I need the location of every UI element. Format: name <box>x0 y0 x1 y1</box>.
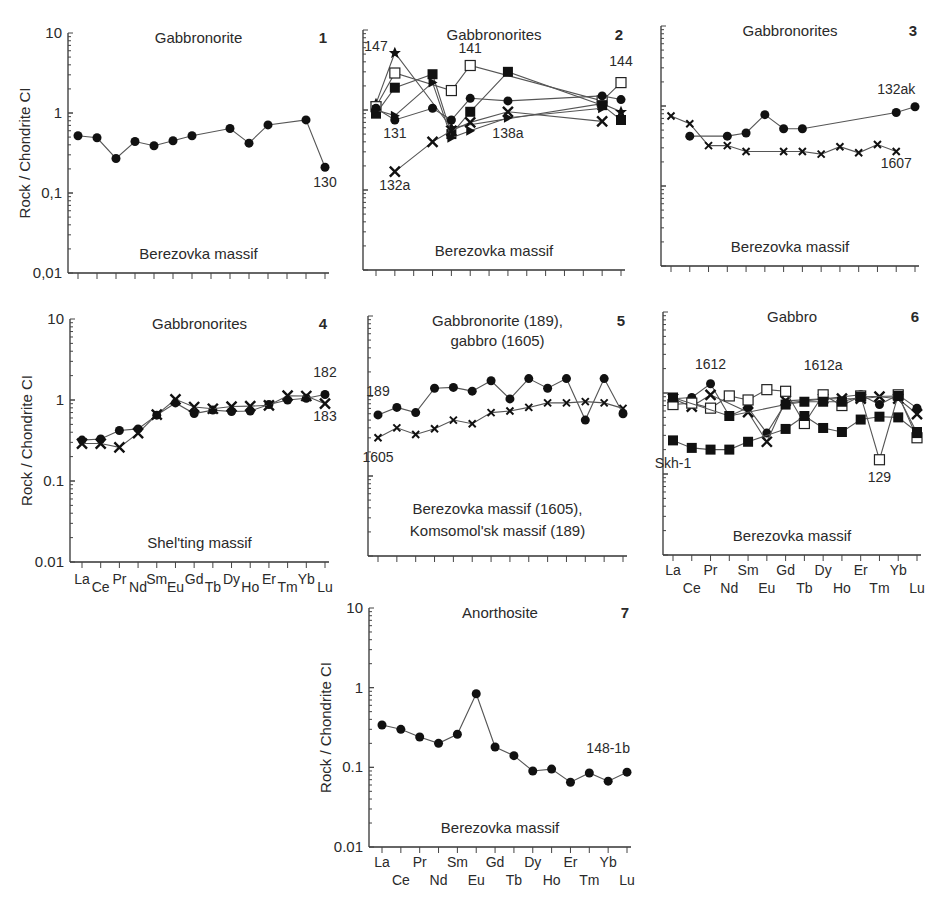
marker-square-icon <box>818 397 828 407</box>
marker-cross-icon <box>465 117 475 127</box>
marker-circle-icon <box>449 383 458 392</box>
marker-circle-icon <box>378 720 387 729</box>
marker-square-icon <box>616 115 626 125</box>
massif-label: Berezovka massif <box>435 242 554 259</box>
marker-circle-icon <box>566 778 575 787</box>
x-tick-label: Sm <box>447 854 468 870</box>
massif-label: Berezovka massif (1605), <box>412 500 582 517</box>
x-tick-label: Sm <box>738 562 759 578</box>
x-tick-label: Dy <box>223 571 240 587</box>
marker-circle-icon <box>396 725 405 734</box>
marker-square-icon <box>893 391 903 401</box>
marker-cross-small-icon <box>431 425 438 432</box>
x-tick-label: Ho <box>543 872 561 888</box>
panel-number: 3 <box>909 22 917 39</box>
panel-title: Gabbro <box>767 308 817 325</box>
sample-label: 132a <box>379 177 410 193</box>
marker-circle-icon <box>562 374 571 383</box>
marker-cross-icon <box>706 390 716 400</box>
x-tick-label: La <box>374 854 390 870</box>
x-tick-label: Pr <box>413 854 427 870</box>
marker-square-icon <box>503 67 513 77</box>
marker-cross-small-icon <box>836 143 843 150</box>
marker-square-icon <box>837 427 847 437</box>
x-tick-label: Dy <box>524 854 541 870</box>
marker-circle-icon <box>188 131 197 140</box>
marker-circle-icon <box>74 131 83 140</box>
marker-square-icon <box>781 424 791 434</box>
marker-circle-icon <box>598 91 607 100</box>
marker-circle-icon <box>150 141 159 150</box>
y-tick-label: 0,01 <box>33 264 62 281</box>
marker-cross-icon <box>428 137 438 147</box>
marker-cross-small-icon <box>375 434 382 441</box>
marker-circle-icon <box>503 96 512 105</box>
sample-label: Skh-1 <box>655 455 692 471</box>
massif-label-line2: Komsomol'sk massif (189) <box>410 522 585 539</box>
sample-label: 183 <box>313 408 337 424</box>
marker-circle-icon <box>585 768 594 777</box>
panel-title: Gabbronorites <box>152 315 247 332</box>
marker-square-icon <box>465 107 475 117</box>
marker-circle-icon <box>617 95 626 104</box>
marker-circle-icon <box>434 739 443 748</box>
x-tick-label: Er <box>262 571 276 587</box>
marker-circle-icon <box>505 394 514 403</box>
panel-1: 1010,10,01Rock / Chondrite CIGabbronorit… <box>16 24 337 281</box>
marker-circle-icon <box>245 139 254 148</box>
y-tick-label: 1 <box>54 104 62 121</box>
y-axis-title: Rock / Chondrite CI <box>317 662 334 793</box>
panel-title: Gabbronorite <box>155 29 243 46</box>
y-tick-label: 10 <box>47 310 64 327</box>
marker-circle-icon <box>487 376 496 385</box>
marker-circle-icon <box>453 730 462 739</box>
marker-square-icon <box>912 427 922 437</box>
marker-square-icon <box>706 445 716 455</box>
x-tick-label: Er <box>854 562 868 578</box>
marker-circle-icon <box>742 128 751 137</box>
marker-cross-icon <box>762 437 772 447</box>
panel-4: 1010.10.01Rock / Chondrite CILaCePrNdSmE… <box>18 310 337 595</box>
marker-square-icon <box>668 435 678 445</box>
marker-circle-icon <box>447 115 456 124</box>
sample-label: 189 <box>366 383 390 399</box>
marker-circle-icon <box>543 384 552 393</box>
marker-square-open-icon <box>762 385 772 395</box>
y-axis-title: Rock / Chondrite CI <box>16 88 33 219</box>
y-tick-label: 1 <box>355 679 363 696</box>
x-tick-label: Tm <box>278 579 298 595</box>
marker-square-icon <box>874 412 884 422</box>
panel-title-line2: gabbro (1605) <box>450 332 544 349</box>
marker-circle-icon <box>581 416 590 425</box>
x-tick-label: Nd <box>430 872 448 888</box>
x-tick-label: Er <box>563 854 577 870</box>
y-tick-label: 0,1 <box>41 184 62 201</box>
x-tick-label: La <box>74 571 90 587</box>
sample-label: 147 <box>364 38 388 54</box>
marker-circle-icon <box>468 387 477 396</box>
x-tick-label: Gd <box>776 562 795 578</box>
marker-circle-icon <box>547 765 556 774</box>
marker-circle-icon <box>491 742 500 751</box>
y-tick-label: 10 <box>346 599 363 616</box>
marker-square-icon <box>856 415 866 425</box>
marker-square-icon <box>799 397 809 407</box>
marker-cross-small-icon <box>412 431 419 438</box>
marker-circle-icon <box>321 390 330 399</box>
x-tick-label: Nd <box>129 579 147 595</box>
panel-title: Gabbronorite (189), <box>432 312 563 329</box>
marker-circle-icon <box>115 426 124 435</box>
panel-title: Anorthosite <box>462 604 538 621</box>
sample-label: 132ak <box>877 81 916 97</box>
marker-square-icon <box>818 423 828 433</box>
marker-square-icon <box>390 83 400 93</box>
marker-square-icon <box>856 392 866 402</box>
x-tick-label: Gd <box>185 571 204 587</box>
x-tick-label: Ho <box>833 580 851 596</box>
marker-cross-small-icon <box>393 424 400 431</box>
y-axis-title: Rock / Chondrite CI <box>18 375 35 506</box>
marker-circle-icon <box>93 133 102 142</box>
y-tick-label: 1 <box>56 391 64 408</box>
marker-circle-icon <box>600 374 609 383</box>
marker-cross-small-icon <box>874 141 881 148</box>
